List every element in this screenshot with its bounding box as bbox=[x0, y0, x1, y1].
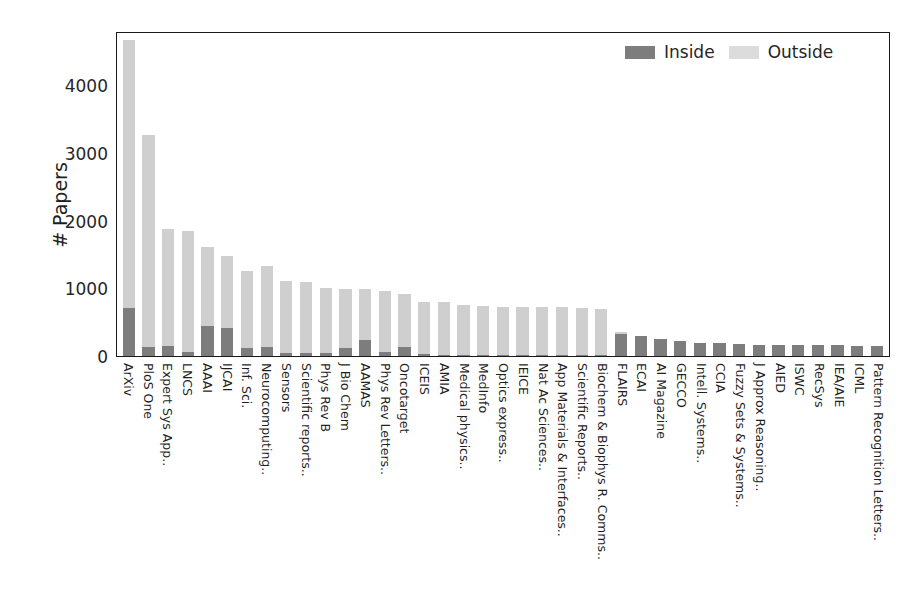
bar-stack[interactable] bbox=[398, 294, 410, 356]
x-axis-tick-label: Scientific reports.. bbox=[299, 363, 312, 477]
x-label-slot: Fuzzy Sets & Systems.. bbox=[730, 357, 750, 607]
bar-segment-inside bbox=[280, 353, 292, 356]
bar-segment-outside bbox=[457, 305, 469, 354]
bar-segment-outside bbox=[418, 302, 430, 354]
bar-stack[interactable] bbox=[792, 345, 804, 356]
bar-stack[interactable] bbox=[359, 289, 371, 356]
x-label-slot: App Materials & Interfaces.. bbox=[553, 357, 573, 607]
bar-segment-outside bbox=[576, 308, 588, 355]
bar-stack[interactable] bbox=[831, 345, 843, 356]
bar-segment-inside bbox=[536, 355, 548, 356]
x-label-slot: PloS One bbox=[138, 357, 158, 607]
bar-segment-inside bbox=[182, 352, 194, 356]
bar-stack[interactable] bbox=[713, 343, 725, 356]
x-label-slot: Phys Rev B bbox=[316, 357, 336, 607]
bar-stack[interactable] bbox=[654, 339, 666, 356]
x-label-slot: Oncotarget bbox=[395, 357, 415, 607]
bar-segment-outside bbox=[339, 289, 351, 348]
bar-stack[interactable] bbox=[497, 307, 509, 356]
bar-segment-inside bbox=[457, 355, 469, 356]
bar-segment-outside bbox=[280, 281, 292, 353]
bar-stack[interactable] bbox=[733, 344, 745, 356]
bar-stack[interactable] bbox=[615, 332, 627, 356]
bar-stack[interactable] bbox=[261, 266, 273, 356]
bar-stack[interactable] bbox=[772, 345, 784, 356]
bar-stack[interactable] bbox=[418, 302, 430, 356]
bar-stack[interactable] bbox=[182, 231, 194, 356]
bar-slot bbox=[828, 33, 848, 356]
bar-stack[interactable] bbox=[201, 247, 213, 356]
bar-slot bbox=[670, 33, 690, 356]
bar-stack[interactable] bbox=[595, 309, 607, 356]
bar-segment-inside bbox=[221, 328, 233, 356]
bar-stack[interactable] bbox=[379, 291, 391, 356]
bar-segment-inside bbox=[576, 355, 588, 356]
bar-stack[interactable] bbox=[142, 135, 154, 356]
bar-slot bbox=[434, 33, 454, 356]
bar-stack[interactable] bbox=[576, 308, 588, 356]
x-label-slot: RecSys bbox=[809, 357, 829, 607]
bar-segment-inside bbox=[398, 347, 410, 356]
bar-segment-inside bbox=[556, 355, 568, 356]
bar-segment-inside bbox=[733, 344, 745, 356]
x-label-slot: Neurocomputing.. bbox=[256, 357, 276, 607]
bar-segment-inside bbox=[123, 308, 135, 356]
x-label-slot: CCIA bbox=[711, 357, 731, 607]
bar-slot bbox=[729, 33, 749, 356]
bar-segment-outside bbox=[379, 291, 391, 352]
bar-segment-inside bbox=[772, 345, 784, 356]
bar-segment-outside bbox=[162, 229, 174, 346]
x-label-slot: IEICE bbox=[513, 357, 533, 607]
bar-stack[interactable] bbox=[753, 345, 765, 357]
bar-stack[interactable] bbox=[123, 40, 135, 356]
bar-segment-outside bbox=[398, 294, 410, 346]
bar-chart-figure: # Papers 01000200030004000 ArXivPloS One… bbox=[0, 0, 917, 613]
bar-slot bbox=[395, 33, 415, 356]
bar-stack[interactable] bbox=[339, 289, 351, 356]
bar-stack[interactable] bbox=[536, 307, 548, 356]
bar-stack[interactable] bbox=[320, 288, 332, 356]
bar-segment-inside bbox=[694, 343, 706, 356]
bar-stack[interactable] bbox=[477, 306, 489, 356]
bar-stack[interactable] bbox=[221, 256, 233, 356]
bar-stack[interactable] bbox=[300, 282, 312, 356]
x-axis-tick-label: AI Magazine bbox=[655, 363, 668, 439]
bar-segment-outside bbox=[123, 40, 135, 308]
bar-segment-inside bbox=[379, 352, 391, 356]
bar-stack[interactable] bbox=[851, 346, 863, 356]
bar-stack[interactable] bbox=[280, 281, 292, 356]
x-axis-tick-label: Phys Rev Letters.. bbox=[378, 363, 391, 475]
bar-slot bbox=[710, 33, 730, 356]
bar-segment-inside bbox=[320, 353, 332, 356]
bar-stack[interactable] bbox=[812, 345, 824, 356]
bar-stack[interactable] bbox=[635, 336, 647, 356]
x-label-slot: J Approx Reasoning.. bbox=[750, 357, 770, 607]
bar-stack[interactable] bbox=[438, 302, 450, 356]
bar-stack[interactable] bbox=[556, 307, 568, 356]
bar-slot bbox=[158, 33, 178, 356]
legend-swatch-outside-icon bbox=[729, 46, 759, 59]
bar-slot bbox=[532, 33, 552, 356]
bar-stack[interactable] bbox=[871, 346, 883, 356]
x-axis-tick-label: AIED bbox=[773, 363, 786, 393]
y-axis-label: # Papers bbox=[49, 105, 71, 305]
x-axis-tick-label: PloS One bbox=[141, 363, 154, 419]
bar-segment-outside bbox=[359, 289, 371, 340]
bar-segment-outside bbox=[516, 307, 528, 355]
x-axis-tick-label: IEA/AIE bbox=[833, 363, 846, 407]
bar-stack[interactable] bbox=[694, 343, 706, 356]
x-axis-tick-label: Optics express.. bbox=[497, 363, 510, 463]
x-label-slot: J Bio Chem bbox=[335, 357, 355, 607]
x-label-slot: MedInfo bbox=[474, 357, 494, 607]
x-label-slot: IJCAI bbox=[217, 357, 237, 607]
bar-stack[interactable] bbox=[162, 229, 174, 356]
bar-stack[interactable] bbox=[516, 307, 528, 356]
y-axis-tick-4000: 4000 bbox=[0, 78, 108, 95]
x-label-slot: Intell. Systems.. bbox=[691, 357, 711, 607]
bar-stack[interactable] bbox=[457, 305, 469, 356]
y-axis-tick-0: 0 bbox=[0, 349, 108, 366]
x-label-slot: AIED bbox=[770, 357, 790, 607]
bar-segment-outside bbox=[300, 282, 312, 353]
bar-stack[interactable] bbox=[241, 271, 253, 356]
bar-stack[interactable] bbox=[674, 341, 686, 356]
